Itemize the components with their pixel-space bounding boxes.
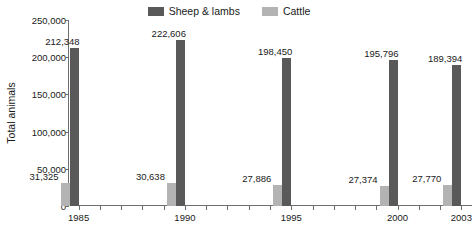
legend-swatch-icon	[262, 7, 278, 16]
bar-value-label-sheep-lambs: 222,606	[152, 28, 186, 39]
y-axis-tick-mark	[65, 132, 69, 133]
chart-legend: Sheep & lambsCattle	[0, 2, 458, 20]
x-axis-tick-mark	[249, 206, 250, 210]
x-axis-tick-mark	[227, 206, 228, 210]
x-axis-tick-mark	[355, 206, 356, 210]
x-axis-tick-label: 1990	[174, 212, 195, 223]
bar-cattle	[380, 186, 389, 206]
x-axis-tick-label: 2000	[387, 212, 408, 223]
x-axis-tick-mark	[398, 206, 399, 210]
bar-cattle	[443, 185, 452, 206]
y-axis-tick-mark	[65, 94, 69, 95]
x-axis-tick-mark	[313, 206, 314, 210]
y-axis-title: Total animals	[0, 20, 22, 205]
x-axis-tick-mark	[79, 206, 80, 210]
y-axis-tick-mark	[65, 57, 69, 58]
bar-cattle	[273, 185, 282, 206]
x-axis-tick-mark	[461, 206, 462, 210]
bar-value-label-sheep-lambs: 212,348	[45, 36, 79, 47]
bar-value-label-sheep-lambs: 195,796	[364, 48, 398, 59]
legend-entry-label: Sheep & lambs	[169, 6, 240, 17]
x-axis-tick-mark	[164, 206, 165, 210]
bar-cattle	[167, 183, 176, 206]
x-axis-tick-mark	[376, 206, 377, 210]
bar-value-label-cattle: 27,770	[412, 173, 441, 184]
x-axis-tick-mark	[206, 206, 207, 210]
x-axis-tick-mark	[270, 206, 271, 210]
y-axis-tick-mark	[65, 206, 69, 207]
bar-value-label-cattle: 30,638	[136, 171, 165, 182]
bar-cattle	[61, 183, 70, 206]
plot-area: 1985199019952000200331,325212,34830,6382…	[68, 20, 472, 206]
bar-value-label-sheep-lambs: 198,450	[258, 46, 292, 57]
y-axis-tick-mark	[65, 169, 69, 170]
x-axis-tick-mark	[291, 206, 292, 210]
bar-value-label-cattle: 27,886	[242, 173, 271, 184]
bar-sheep-lambs	[389, 60, 398, 206]
bar-sheep-lambs	[452, 65, 461, 206]
bar-chart: Total animals 250,000200,000150,000100,0…	[0, 20, 458, 233]
y-axis-tick-label: 250,000	[32, 15, 66, 26]
x-axis-tick-mark	[121, 206, 122, 210]
legend-entry: Cattle	[262, 6, 310, 17]
plot-wrapper: 250,000200,000150,000100,00050,0000 1985…	[22, 20, 458, 233]
y-axis-tick-label: 150,000	[32, 89, 66, 100]
x-axis-tick-mark	[142, 206, 143, 210]
x-axis-tick-mark	[334, 206, 335, 210]
bar-sheep-lambs	[282, 58, 291, 206]
bar-sheep-lambs	[70, 48, 79, 206]
y-axis-tick-mark	[65, 20, 69, 21]
x-axis-tick-mark	[100, 206, 101, 210]
x-axis-tick-mark	[185, 206, 186, 210]
bar-sheep-lambs	[176, 40, 185, 206]
x-axis-tick-label: 2003	[451, 212, 472, 223]
x-axis-tick-label: 1985	[68, 212, 89, 223]
x-axis-tick-mark	[440, 206, 441, 210]
x-axis-tick-mark	[419, 206, 420, 210]
bar-value-label-sheep-lambs: 189,394	[428, 53, 462, 64]
legend-entry: Sheep & lambs	[148, 6, 240, 17]
legend-swatch-icon	[148, 7, 164, 16]
bar-value-label-cattle: 31,325	[30, 171, 59, 182]
legend-entry-label: Cattle	[283, 6, 310, 17]
y-axis-tick-label: 100,000	[32, 126, 66, 137]
x-axis-tick-label: 1995	[281, 212, 302, 223]
y-axis-title-label: Total animals	[5, 82, 17, 143]
bar-value-label-cattle: 27,374	[349, 174, 378, 185]
y-axis-tick-label: 200,000	[32, 52, 66, 63]
